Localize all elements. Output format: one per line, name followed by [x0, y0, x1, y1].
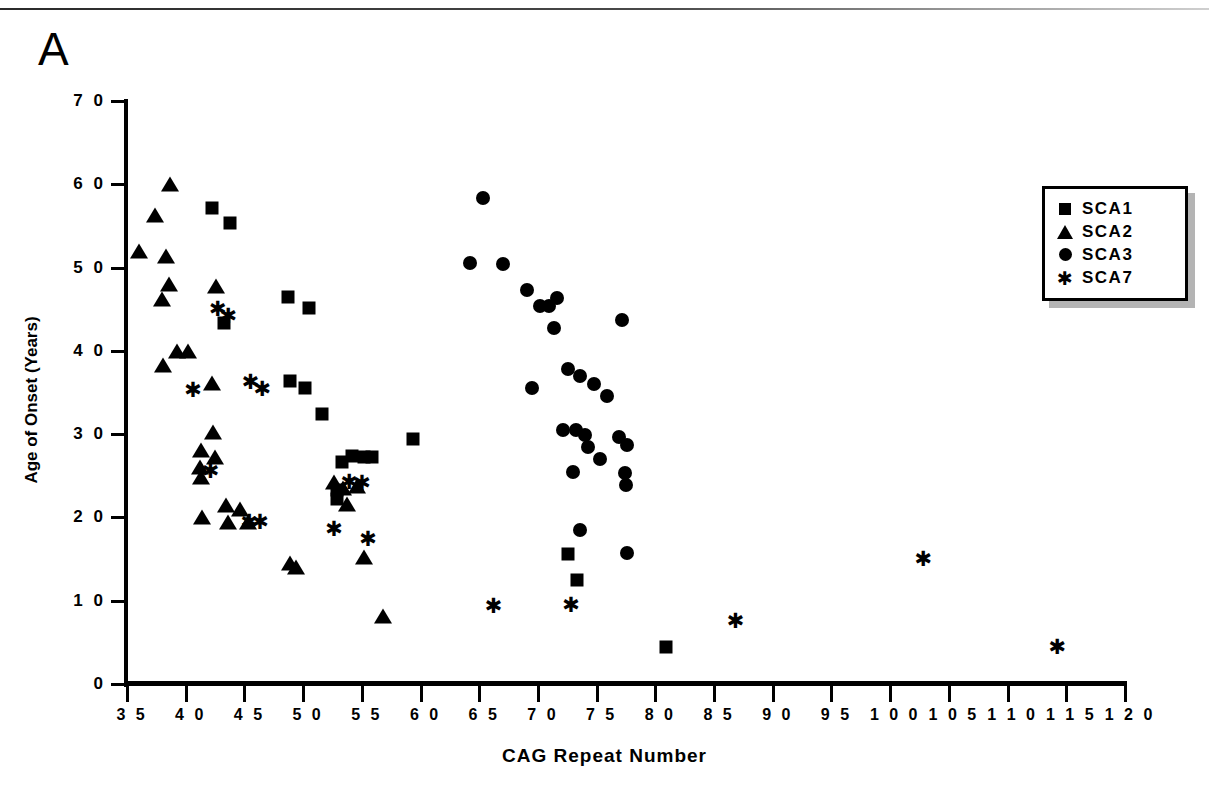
scan-artifact-line	[0, 8, 1209, 10]
data-point-sca3	[520, 283, 534, 297]
y-axis-title: Age of Onset (Years)	[22, 200, 42, 600]
legend-label: SCA7	[1082, 268, 1133, 288]
x-tick-label-70: 7 0	[527, 706, 558, 724]
x-tick-40	[185, 686, 188, 702]
data-point-sca3	[476, 191, 490, 205]
data-point-sca2	[130, 243, 148, 258]
data-point-sca7: ✱	[353, 475, 370, 492]
x-tick-90	[772, 686, 775, 702]
data-point-sca7: ✱	[254, 381, 271, 398]
data-point-sca3	[463, 256, 477, 270]
y-tick-0	[111, 683, 124, 686]
y-tick-label-40: 4 0	[73, 341, 106, 361]
data-point-sca1	[315, 408, 328, 421]
data-point-sca1	[205, 201, 218, 214]
data-point-sca2	[146, 208, 164, 223]
x-tick-100	[889, 686, 892, 702]
data-point-sca1	[281, 290, 294, 303]
x-tick-label-35: 3 5	[116, 706, 147, 724]
y-tick-50	[111, 267, 124, 270]
data-point-sca1	[366, 450, 379, 463]
x-tick-55	[361, 686, 364, 702]
y-tick-label-70: 7 0	[73, 91, 106, 111]
y-tick-label-20: 2 0	[73, 507, 106, 527]
data-point-sca3	[600, 389, 614, 403]
data-point-sca3	[547, 321, 561, 335]
data-point-sca3	[550, 291, 564, 305]
x-tick-label-75: 7 5	[586, 706, 617, 724]
data-point-sca1	[562, 548, 575, 561]
figure-panel: A 01 02 03 04 05 06 07 0 3 54 04 55 05 5…	[0, 0, 1209, 798]
legend-item-sca7: ✱SCA7	[1055, 266, 1179, 289]
x-tick-105	[948, 686, 951, 702]
data-point-sca7: ✱	[359, 531, 376, 548]
data-point-sca2	[157, 248, 175, 263]
x-tick-80	[654, 686, 657, 702]
legend-label: SCA1	[1082, 199, 1133, 219]
legend-item-sca3: SCA3	[1055, 243, 1179, 266]
data-point-sca2	[207, 278, 225, 293]
data-point-sca2	[161, 177, 179, 192]
data-point-sca3	[556, 423, 570, 437]
data-point-sca1	[407, 433, 420, 446]
data-point-sca2	[179, 343, 197, 358]
x-axis-title: CAG Repeat Number	[0, 745, 1209, 767]
x-tick-65	[478, 686, 481, 702]
data-point-sca2	[153, 292, 171, 307]
x-tick-45	[243, 686, 246, 702]
panel-label: A	[38, 26, 69, 72]
x-tick-label-80: 8 0	[645, 706, 676, 724]
x-tick-label-105: 1 0 5	[929, 706, 980, 724]
y-tick-40	[111, 350, 124, 353]
legend: SCA1SCA2SCA3✱SCA7	[1042, 186, 1188, 301]
legend-label: SCA3	[1082, 245, 1133, 265]
data-point-sca2	[160, 277, 178, 292]
legend-item-sca1: SCA1	[1055, 197, 1179, 220]
data-point-sca3	[620, 438, 634, 452]
data-point-sca2	[203, 375, 221, 390]
y-tick-30	[111, 433, 124, 436]
x-tick-label-85: 8 5	[703, 706, 734, 724]
data-point-sca7: ✱	[562, 596, 579, 613]
data-point-sca3	[573, 523, 587, 537]
data-point-sca3	[566, 465, 580, 479]
x-tick-label-95: 9 5	[821, 706, 852, 724]
square-marker-icon	[1055, 203, 1075, 215]
x-tick-120	[1124, 686, 1127, 702]
y-tick-10	[111, 600, 124, 603]
data-point-sca3	[615, 313, 629, 327]
data-point-sca7: ✱	[251, 514, 268, 531]
x-tick-95	[830, 686, 833, 702]
plot-area: ✱✱✱✱✱✱✱✱✱✱✱✱✱✱✱✱✱	[127, 101, 1125, 684]
x-tick-85	[713, 686, 716, 702]
y-tick-60	[111, 183, 124, 186]
x-tick-label-120: 1 2 0	[1105, 706, 1156, 724]
data-point-sca2	[338, 497, 356, 512]
data-point-sca7: ✱	[1048, 638, 1065, 655]
data-point-sca2	[287, 559, 305, 574]
x-tick-75	[596, 686, 599, 702]
data-point-sca3	[581, 440, 595, 454]
data-point-sca3	[496, 257, 510, 271]
x-tick-label-100: 1 0 0	[870, 706, 921, 724]
data-point-sca7: ✱	[325, 521, 342, 538]
x-tick-60	[420, 686, 423, 702]
x-tick-label-40: 4 0	[175, 706, 206, 724]
x-tick-110	[1007, 686, 1010, 702]
x-tick-50	[302, 686, 305, 702]
data-point-sca7: ✱	[915, 551, 932, 568]
data-point-sca1	[299, 382, 312, 395]
x-tick-label-55: 5 5	[351, 706, 382, 724]
data-point-sca1	[284, 374, 297, 387]
circle-marker-icon	[1055, 248, 1075, 261]
x-tick-115	[1065, 686, 1068, 702]
data-point-sca7: ✱	[219, 307, 236, 324]
legend-item-sca2: SCA2	[1055, 220, 1179, 243]
data-point-sca7: ✱	[485, 597, 502, 614]
data-point-sca1	[302, 301, 315, 314]
y-tick-70	[111, 100, 124, 103]
data-point-sca1	[659, 641, 672, 654]
data-point-sca3	[525, 381, 539, 395]
data-point-sca3	[587, 377, 601, 391]
x-tick-label-90: 9 0	[762, 706, 793, 724]
